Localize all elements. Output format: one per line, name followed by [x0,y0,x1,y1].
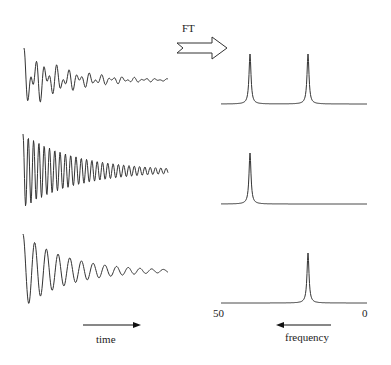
diagram-canvas [0,0,391,365]
spectrum-2-curve [221,153,367,204]
ft-label: FT [182,22,195,34]
spectrum-3-curve [221,253,367,303]
fid-2-curve [23,134,168,206]
fid-3-curve [23,234,168,303]
freq-axis-max-label: 50 [213,307,224,319]
frequency-arrow-head-icon [276,322,284,328]
time-arrow-head-icon [133,322,141,328]
frequency-label: frequency [285,331,329,343]
time-label: time [96,333,116,345]
fid-1-curve [24,48,168,102]
ft-arrow-icon [177,37,227,59]
spectrum-1-curve [221,54,367,104]
freq-axis-min-label: 0 [362,307,368,319]
